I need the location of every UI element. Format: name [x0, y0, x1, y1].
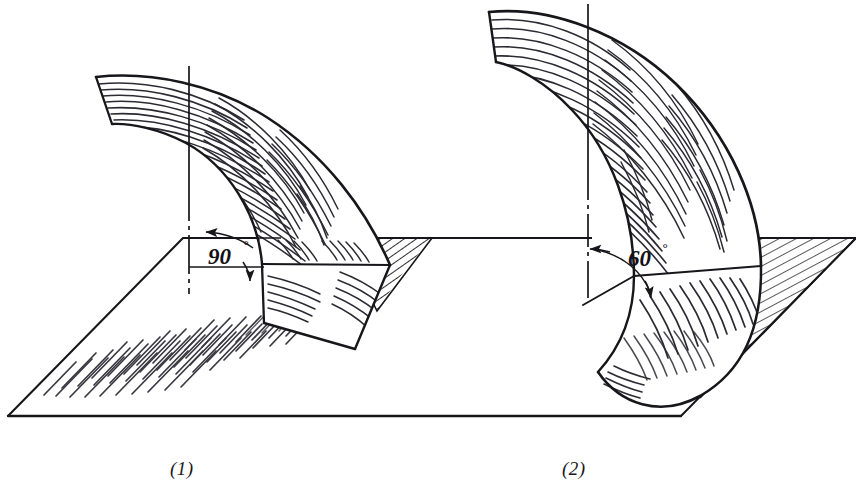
figure-2-caption: (2): [562, 458, 586, 480]
figure-1-degree-symbol: °: [243, 237, 249, 252]
figure-2-degree-symbol: °: [662, 240, 668, 255]
figure-1-ground-trace: [262, 264, 390, 265]
drawing-canvas: 90 °: [0, 0, 856, 501]
figure-1-angle-value: 90: [208, 244, 232, 269]
figure-1-caption: (1): [170, 458, 194, 480]
technical-drawing-figure: 90 °: [0, 0, 856, 501]
figure-2-angle-value: 60: [628, 246, 652, 271]
